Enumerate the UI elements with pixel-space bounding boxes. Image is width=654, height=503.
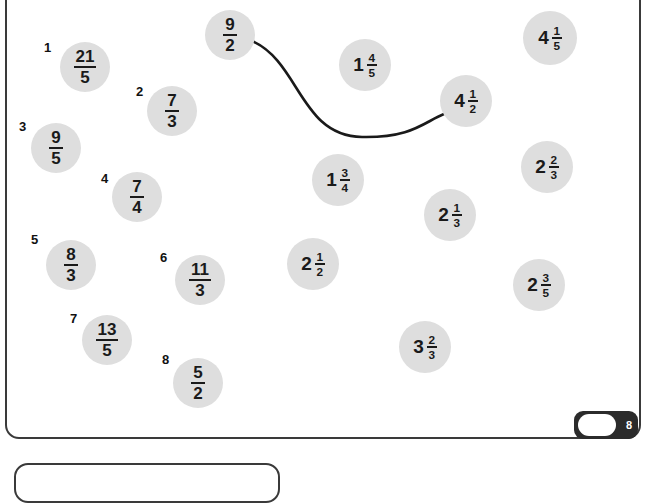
index-label-4: 4 bbox=[101, 171, 108, 186]
mixed-number: 415 bbox=[538, 25, 562, 52]
numerator: 4 bbox=[368, 52, 377, 65]
numerator: 2 bbox=[550, 154, 559, 167]
numerator: 9 bbox=[49, 129, 62, 147]
bubble-content: 415 bbox=[538, 25, 562, 52]
improper-fraction: 113 bbox=[189, 261, 211, 299]
denominator: 3 bbox=[64, 266, 77, 284]
numerator: 3 bbox=[542, 272, 551, 285]
improper-fraction: 95 bbox=[49, 129, 63, 167]
bubble-content: 215 bbox=[74, 48, 97, 86]
index-label-5: 5 bbox=[31, 232, 38, 247]
denominator: 3 bbox=[165, 112, 178, 130]
bubble-content: 212 bbox=[301, 251, 325, 278]
mixed-number: 223 bbox=[535, 154, 559, 181]
mixed-2-3-5[interactable]: 235 bbox=[513, 259, 565, 311]
mixed-number: 412 bbox=[454, 88, 478, 115]
denominator: 2 bbox=[316, 265, 325, 278]
numerator: 9 bbox=[223, 16, 236, 34]
mixed-number: 145 bbox=[353, 52, 377, 79]
index-label-2: 2 bbox=[136, 84, 143, 99]
fraction-part: 35 bbox=[541, 272, 551, 299]
fraction-part: 45 bbox=[367, 52, 377, 79]
bubble-content: 113 bbox=[189, 261, 211, 299]
fraction-part: 34 bbox=[340, 167, 350, 194]
bubble-content: 83 bbox=[64, 246, 78, 284]
fraction-11-3[interactable]: 113 bbox=[175, 255, 225, 305]
numerator: 7 bbox=[130, 178, 143, 196]
fraction-7-3[interactable]: 73 bbox=[147, 86, 197, 136]
fraction-8-3[interactable]: 83 bbox=[46, 240, 96, 290]
numerator: 13 bbox=[96, 321, 119, 339]
numerator: 8 bbox=[64, 246, 77, 264]
whole-part: 1 bbox=[353, 55, 364, 74]
bubble-content: 135 bbox=[96, 321, 119, 359]
numerator: 5 bbox=[191, 364, 204, 382]
mixed-4-1-5[interactable]: 415 bbox=[523, 11, 577, 65]
whole-part: 4 bbox=[454, 91, 465, 110]
numerator: 1 bbox=[469, 88, 478, 101]
improper-fraction: 135 bbox=[96, 321, 119, 359]
denominator: 2 bbox=[191, 384, 204, 402]
mixed-number: 134 bbox=[326, 167, 350, 194]
bubble-content: 52 bbox=[191, 364, 205, 402]
fraction-part: 12 bbox=[315, 251, 325, 278]
fraction-7-4[interactable]: 74 bbox=[112, 172, 162, 222]
fraction-9-2[interactable]: 92 bbox=[205, 10, 255, 60]
whole-part: 2 bbox=[527, 275, 538, 294]
mixed-3-2-3[interactable]: 323 bbox=[399, 321, 451, 373]
fraction-13-5[interactable]: 135 bbox=[82, 315, 132, 365]
mixed-4-1-2[interactable]: 412 bbox=[440, 75, 492, 127]
numerator: 1 bbox=[553, 25, 562, 38]
fraction-part: 12 bbox=[468, 88, 478, 115]
bubble-content: 412 bbox=[454, 88, 478, 115]
improper-fraction: 83 bbox=[64, 246, 78, 284]
denominator: 5 bbox=[78, 68, 91, 86]
improper-fraction: 92 bbox=[223, 16, 237, 54]
denominator: 3 bbox=[550, 168, 559, 181]
fraction-5-2[interactable]: 52 bbox=[173, 358, 223, 408]
index-label-3: 3 bbox=[19, 119, 26, 134]
bubble-content: 145 bbox=[353, 52, 377, 79]
denominator: 4 bbox=[130, 198, 143, 216]
mixed-2-2-3[interactable]: 223 bbox=[521, 141, 573, 193]
fraction-part: 23 bbox=[427, 334, 437, 361]
mixed-1-4-5[interactable]: 145 bbox=[339, 39, 391, 91]
bubble-content: 223 bbox=[535, 154, 559, 181]
denominator: 4 bbox=[341, 181, 350, 194]
mixed-2-1-2[interactable]: 212 bbox=[287, 238, 339, 290]
page-number: 8 bbox=[626, 416, 632, 434]
whole-part: 3 bbox=[413, 337, 424, 356]
mixed-1-3-4[interactable]: 134 bbox=[312, 154, 364, 206]
fraction-part: 15 bbox=[552, 25, 562, 52]
mixed-number: 212 bbox=[301, 251, 325, 278]
denominator: 3 bbox=[453, 216, 462, 229]
index-label-1: 1 bbox=[44, 40, 51, 55]
index-label-8: 8 bbox=[162, 352, 169, 367]
whole-part: 2 bbox=[301, 254, 312, 273]
numerator: 3 bbox=[341, 167, 350, 180]
mixed-2-1-3[interactable]: 213 bbox=[424, 189, 476, 241]
bubble-content: 213 bbox=[438, 202, 462, 229]
denominator: 5 bbox=[553, 39, 562, 52]
numerator: 21 bbox=[74, 48, 97, 66]
numerator: 11 bbox=[189, 261, 211, 279]
numerator: 7 bbox=[165, 92, 178, 110]
bubble-content: 323 bbox=[413, 334, 437, 361]
denominator: 5 bbox=[368, 66, 377, 79]
bubble-content: 92 bbox=[223, 16, 237, 54]
index-label-6: 6 bbox=[160, 250, 167, 265]
bubble-content: 235 bbox=[527, 272, 551, 299]
denominator: 3 bbox=[428, 348, 437, 361]
fraction-21-5[interactable]: 215 bbox=[60, 42, 110, 92]
improper-fraction: 74 bbox=[130, 178, 144, 216]
fraction-9-5[interactable]: 95 bbox=[31, 123, 81, 173]
exercise-frame-next bbox=[14, 463, 280, 503]
whole-part: 4 bbox=[538, 28, 549, 47]
numerator: 1 bbox=[316, 251, 325, 264]
fraction-part: 13 bbox=[452, 202, 462, 229]
whole-part: 2 bbox=[438, 205, 449, 224]
improper-fraction: 215 bbox=[74, 48, 97, 86]
page-tab-pill bbox=[578, 414, 616, 436]
bubble-content: 134 bbox=[326, 167, 350, 194]
